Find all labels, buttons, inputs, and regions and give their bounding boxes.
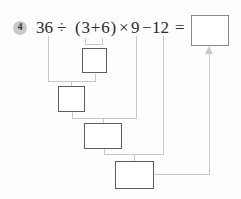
step-2-box[interactable] [58,86,85,112]
connector-line [48,36,49,82]
connector-line [154,174,210,175]
expression-token-divide: ÷ [57,19,66,36]
problem-number-text: 4 [18,23,23,33]
expression-token-times: × [119,19,129,36]
expression-token-minus: − [142,19,152,36]
connector-line [48,81,96,82]
expression-token-9: 9 [131,19,140,36]
problem-number-badge: 4 [13,21,27,35]
connector-line [209,53,210,175]
connector-line [95,74,96,82]
connector-line [136,36,137,119]
result-box[interactable] [191,15,229,46]
connector-line [72,118,137,119]
expression-token-36: 36 [36,19,53,36]
expression-token-paren-3-plus-6: (3+6) [75,19,117,36]
step-3-box[interactable] [84,123,122,149]
expression-token-equals: = [175,19,185,36]
expression-token-12: 12 [152,19,169,36]
step-4-box[interactable] [115,161,154,189]
step-1-box[interactable] [82,48,107,73]
arrow-up-icon [205,46,213,54]
connector-line [163,36,164,155]
connector-line [85,44,103,45]
worksheet-problem: 4 36 ÷ (3+6) × 9 − 12 = [0,0,241,199]
